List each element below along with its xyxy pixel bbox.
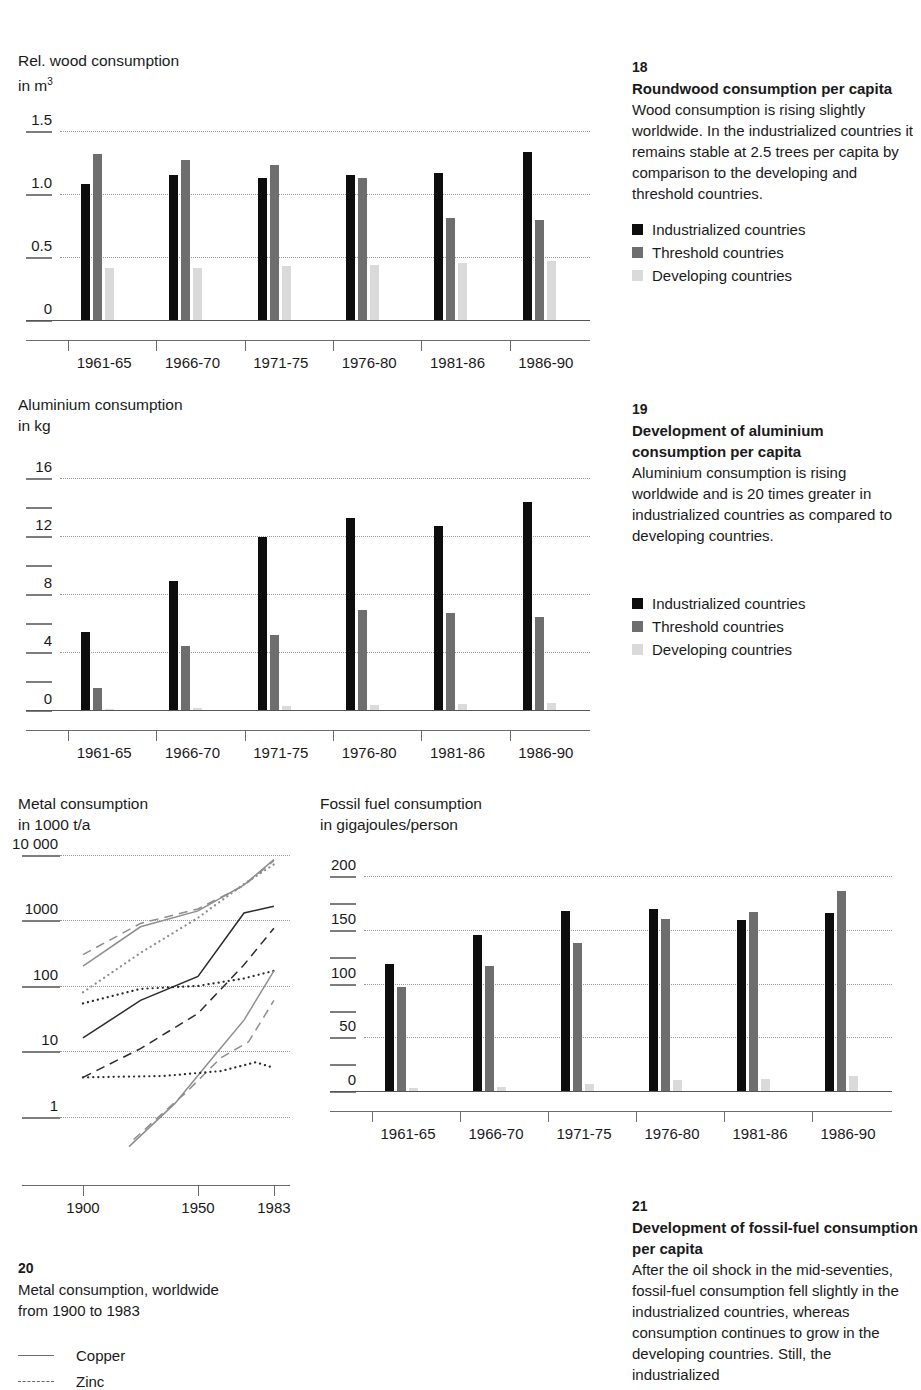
bar-threshold-1976-80 (661, 919, 670, 1091)
gridline (60, 478, 590, 479)
y-axis-tick (26, 507, 52, 509)
x-axis-label-1976-80: 1976-80 (325, 744, 413, 761)
bar-industrialized-1971-75 (258, 178, 267, 320)
y-axis-label: 0 (308, 1072, 356, 1087)
legend-label-developing: Developing countries (652, 639, 792, 660)
bar-industrialized-1976-80 (346, 175, 355, 320)
bar-developing-1966-70 (497, 1087, 506, 1091)
bar-developing-1971-75 (585, 1084, 594, 1092)
bar-developing-1961-65 (105, 709, 114, 710)
bar-threshold-1981-86 (749, 912, 758, 1091)
chart-wood-title-line1: Rel. wood consumption (18, 50, 600, 71)
x-axis-tick (245, 730, 246, 741)
gridline (60, 131, 590, 132)
bar-industrialized-1976-80 (649, 909, 658, 1091)
y-axis-tick (330, 1037, 356, 1039)
bar-threshold-1961-65 (93, 688, 102, 710)
x-axis-label-1976-80: 1976-80 (325, 354, 413, 371)
bar-industrialized-1961-65 (385, 964, 394, 1091)
gridline (60, 594, 590, 595)
bar-threshold-1961-65 (397, 987, 406, 1091)
legend-label-industrialized: Industrialized countries (652, 219, 805, 240)
x-axis-tick (68, 730, 69, 741)
gridline (60, 257, 590, 258)
y-axis-label: 8 (4, 575, 52, 590)
bar-threshold-1976-80 (358, 178, 367, 320)
bar-industrialized-1986-90 (825, 913, 834, 1091)
y-axis-tick (22, 855, 60, 857)
legend-item-copper: Copper (18, 1342, 308, 1368)
x-axis-label-1966-70: 1966-70 (148, 354, 236, 371)
legend-item-threshold: Threshold countries (632, 241, 914, 264)
y-axis-tick (330, 1064, 356, 1066)
x-axis-label-1961-65: 1961-65 (60, 354, 148, 371)
bar-developing-1981-86 (458, 263, 467, 320)
bar-developing-1981-86 (761, 1079, 770, 1091)
chart-wood-title-line2: in m3 (18, 71, 600, 96)
x-axis-tick (724, 1111, 725, 1122)
bar-threshold-1966-70 (181, 160, 190, 320)
y-axis-label: 100 (308, 965, 356, 980)
y-axis-tick (26, 623, 52, 625)
x-axis-line (26, 340, 590, 341)
panel-18-heading: Roundwood consumption per capita (632, 78, 914, 99)
legend-line-zinc-icon (18, 1381, 54, 1382)
bar-developing-1966-70 (193, 708, 202, 710)
bar-threshold-1986-90 (535, 220, 544, 320)
y-axis-label: 1.5 (4, 112, 52, 127)
gridline (364, 1037, 892, 1038)
gridline (60, 536, 590, 537)
y-axis-tick (26, 536, 52, 538)
x-axis-label-1981-86: 1981-86 (413, 354, 501, 371)
gridline (364, 984, 892, 985)
x-axis-tick (510, 340, 511, 351)
panel-19: 19 Development of aluminium consumption … (632, 399, 914, 661)
x-axis-label-1986-90: 1986-90 (502, 744, 590, 761)
legend-label-zinc: Zinc (76, 1371, 104, 1390)
bar-developing-1986-90 (547, 261, 556, 320)
chart-aluminium-title-line1: Aluminium consumption (18, 394, 600, 415)
x-axis-tick (156, 340, 157, 351)
y-axis-label: 10 (0, 1032, 58, 1047)
legend-item-industrialized: Industrialized countries (632, 592, 914, 615)
line-series-series-8 (134, 1000, 274, 1139)
line-series-series-9 (83, 1062, 274, 1077)
y-axis-label: 1000 (0, 901, 58, 916)
y-axis-label: 1 (0, 1098, 58, 1113)
x-axis-tick (83, 1185, 84, 1196)
y-axis-tick (330, 930, 356, 932)
legend-label-copper: Copper (76, 1345, 125, 1366)
x-axis-label-1986-90: 1986-90 (502, 354, 590, 371)
panel-21-number: 21 (632, 1196, 920, 1216)
bar-threshold-1971-75 (573, 943, 582, 1091)
chart-metal-plot-area: 110100100010 000190019501983 (60, 855, 290, 1151)
panel-18-number: 18 (632, 57, 914, 77)
x-axis-label-1966-70: 1966-70 (148, 744, 236, 761)
x-axis-tick (198, 1185, 199, 1196)
x-axis-tick (372, 1111, 373, 1122)
panel-19-heading: Development of aluminium consumption per… (632, 420, 914, 462)
x-axis-tick (636, 1111, 637, 1122)
x-axis-tick (460, 1111, 461, 1122)
x-axis-label-1981-86: 1981-86 (716, 1125, 804, 1142)
bar-threshold-1966-70 (485, 966, 494, 1092)
bar-developing-1976-80 (673, 1080, 682, 1091)
bar-threshold-1981-86 (446, 218, 455, 320)
bar-industrialized-1981-86 (434, 526, 443, 710)
x-axis-label-1966-70: 1966-70 (452, 1125, 540, 1142)
x-axis-tick (68, 340, 69, 351)
x-axis-label-1983: 1983 (234, 1199, 314, 1216)
y-axis-tick (330, 984, 356, 986)
legend-label-industrialized: Industrialized countries (652, 593, 805, 614)
bar-developing-1986-90 (849, 1076, 858, 1091)
x-axis-label-1981-86: 1981-86 (413, 744, 501, 761)
zero-baseline (330, 1091, 892, 1092)
y-axis-tick (26, 131, 52, 133)
y-axis-label: 100 (0, 967, 58, 982)
y-axis-label: 50 (308, 1018, 356, 1033)
bar-developing-1986-90 (547, 703, 556, 710)
x-axis-label-1971-75: 1971-75 (237, 354, 325, 371)
legend-line-copper-icon (18, 1355, 54, 1356)
bar-industrialized-1986-90 (523, 152, 532, 320)
y-axis-tick (26, 257, 52, 259)
